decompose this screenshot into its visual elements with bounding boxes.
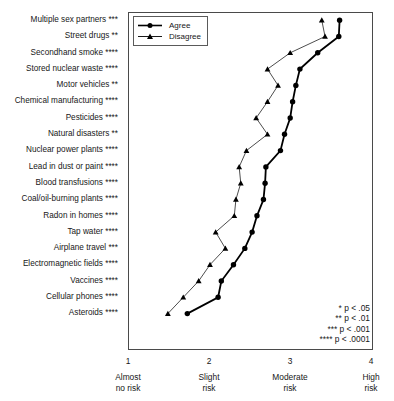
significance-marker: *** — [106, 15, 118, 24]
x-tick-caption-line2: risk — [362, 383, 379, 393]
x-tick-value: 2 — [199, 356, 220, 366]
category-label: Natural disasters ** — [0, 126, 122, 142]
category-label-text: Airplane travel — [54, 243, 106, 252]
x-tick-caption-line1: Almost — [115, 372, 141, 382]
data-point — [242, 246, 247, 251]
category-label: Tap water **** — [0, 224, 122, 240]
significance-marker: **** — [103, 145, 118, 154]
category-label-text: Pesticides — [66, 113, 103, 122]
data-point — [254, 213, 259, 218]
data-point — [219, 278, 224, 283]
significance-marker: ** — [109, 31, 118, 40]
category-label: Cellular phones **** — [0, 289, 122, 305]
x-axis-tick: 1Almostno risk — [115, 350, 141, 393]
legend-item-disagree: Disagree — [137, 31, 201, 42]
pvalue-note: *** p < .001 — [319, 324, 370, 335]
category-label: Coal/oil-burning plants **** — [0, 191, 122, 207]
legend-item-agree: Agree — [137, 20, 201, 31]
category-label-text: Blood transfusions — [36, 178, 103, 187]
data-point — [231, 213, 237, 218]
series-agree — [185, 18, 343, 317]
category-label-text: Multiple sex partners — [31, 15, 107, 24]
category-label: Airplane travel *** — [0, 240, 122, 256]
significance-marker: **** — [103, 259, 118, 268]
data-point — [336, 34, 341, 39]
significance-marker: **** — [103, 227, 118, 236]
data-point — [275, 83, 281, 88]
x-tick-caption-line1: Slight — [199, 372, 220, 382]
data-point — [287, 115, 292, 120]
x-tick-caption-line1: Moderate — [272, 372, 307, 382]
agree-marker-icon — [137, 20, 163, 31]
pvalue-note: * p < .05 — [319, 303, 370, 314]
x-tick-value: 3 — [272, 356, 307, 366]
pvalue-annotation-block: * p < .05** p < .01*** p < .001**** p < … — [319, 303, 370, 345]
significance-marker: **** — [103, 64, 118, 73]
data-point — [261, 197, 266, 202]
data-point — [249, 229, 254, 234]
x-tick-value: 1 — [115, 356, 141, 366]
category-label-text: Nuclear power plants — [26, 145, 103, 154]
data-point — [236, 164, 242, 169]
category-label-text: Vaccines — [70, 276, 103, 285]
category-label-text: Coal/oil-burning plants — [22, 194, 103, 203]
disagree-marker-icon — [137, 31, 163, 42]
significance-marker: **** — [103, 96, 118, 105]
legend-label-disagree: Disagree — [169, 32, 201, 41]
x-tick-caption-line2: no risk — [115, 383, 141, 393]
significance-marker: ** — [109, 80, 118, 89]
data-point — [185, 311, 190, 316]
category-label-text: Radon in homes — [43, 211, 103, 220]
data-point — [315, 50, 320, 55]
category-label-text: Stored nuclear waste — [26, 64, 103, 73]
category-label: Vaccines **** — [0, 273, 122, 289]
category-label: Electromagnetic fields **** — [0, 256, 122, 272]
category-label: Stored nuclear waste **** — [0, 61, 122, 77]
category-label-text: Street drugs — [65, 31, 110, 40]
significance-marker: **** — [103, 48, 118, 57]
x-tick-caption-line1: High — [362, 372, 379, 382]
x-tick-caption-line2: risk — [199, 383, 220, 393]
significance-marker: **** — [103, 113, 118, 122]
category-label: Nuclear power plants **** — [0, 142, 122, 158]
x-tick-caption-line2: risk — [272, 383, 307, 393]
category-label-text: Chemical manufacturing — [15, 96, 103, 105]
category-label: Pesticides **** — [0, 110, 122, 126]
risk-perception-chart: Multiple sex partners ***Street drugs **… — [0, 0, 394, 401]
data-point — [293, 83, 298, 88]
pvalue-note: ** p < .01 — [319, 313, 370, 324]
data-point — [231, 262, 236, 267]
category-label: Street drugs ** — [0, 28, 122, 44]
x-axis-tick: 2Slightrisk — [199, 350, 220, 393]
plot-area — [128, 12, 373, 350]
data-point — [265, 66, 271, 71]
data-point — [215, 295, 220, 300]
category-label: Secondhand smoke **** — [0, 45, 122, 61]
series-disagree — [165, 17, 328, 316]
significance-marker: **** — [103, 308, 118, 317]
x-axis-tick: 4Highrisk — [362, 350, 379, 393]
category-label: Motor vehicles ** — [0, 77, 122, 93]
category-label: Multiple sex partners *** — [0, 12, 122, 28]
data-point — [222, 246, 228, 251]
series-plot — [129, 13, 372, 349]
significance-marker: ** — [109, 129, 118, 138]
category-label-text: Asteroids — [69, 308, 103, 317]
category-label-text: Cellular phones — [46, 292, 103, 301]
category-label: Blood transfusions **** — [0, 175, 122, 191]
data-point — [262, 181, 267, 186]
data-point — [290, 99, 295, 104]
data-point — [244, 148, 250, 153]
data-point — [322, 34, 328, 39]
data-point — [196, 278, 202, 283]
data-point — [319, 17, 325, 22]
significance-marker: *** — [106, 243, 118, 252]
category-label: Chemical manufacturing **** — [0, 93, 122, 109]
category-axis-labels: Multiple sex partners ***Street drugs **… — [0, 12, 122, 322]
significance-marker: **** — [103, 211, 118, 220]
data-point — [287, 50, 293, 55]
category-label-text: Motor vehicles — [57, 80, 110, 89]
data-point — [265, 131, 271, 136]
data-point — [337, 18, 342, 23]
data-point — [233, 197, 239, 202]
